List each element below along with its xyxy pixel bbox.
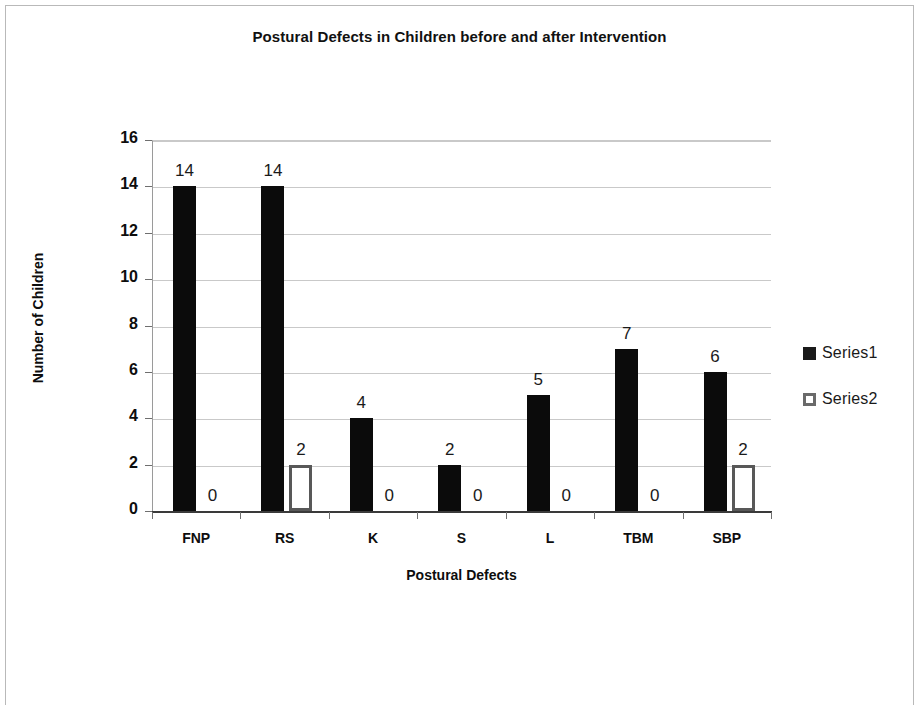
bar-value-label: 6 (695, 347, 735, 367)
gridline (153, 187, 771, 188)
bar-value-label: 14 (253, 161, 293, 181)
bar-value-label: 2 (430, 440, 470, 460)
x-axis-tick-mark (417, 512, 418, 519)
bar-value-label: 7 (607, 324, 647, 344)
y-axis-tick-mark (145, 418, 152, 419)
bar-rs-series2 (289, 465, 312, 511)
x-axis-tick-label-l: L (506, 530, 594, 546)
x-axis-tick-label-fnp: FNP (152, 530, 240, 546)
bar-value-label: 4 (341, 393, 381, 413)
gridline (153, 466, 771, 467)
y-axis-tick-mark (145, 372, 152, 373)
y-axis-tick-label: 4 (96, 407, 138, 425)
y-axis-tick-mark (145, 140, 152, 141)
bar-value-label: 0 (635, 486, 675, 506)
legend-label: Series2 (822, 390, 878, 408)
x-axis-tick-mark (240, 512, 241, 519)
plot-area: 1401424020507062 (152, 140, 771, 511)
bar-sbp-series2 (732, 465, 755, 511)
y-axis-tick-mark (145, 233, 152, 234)
bar-value-label: 2 (281, 440, 321, 460)
x-axis-tick-label-tbm: TBM (594, 530, 682, 546)
bar-value-label: 2 (723, 440, 763, 460)
bar-value-label: 14 (165, 161, 205, 181)
y-axis-title: Number of Children (30, 218, 46, 418)
chart-legend: Series1Series2 (803, 342, 878, 434)
legend-item-series1[interactable]: Series1 (803, 342, 878, 364)
legend-label: Series1 (822, 344, 878, 362)
x-axis-tick-mark (329, 512, 330, 519)
x-axis-tick-mark (594, 512, 595, 519)
y-axis-tick-mark (145, 279, 152, 280)
x-axis-tick-label-k: K (329, 530, 417, 546)
bar-fnp-series1 (173, 186, 196, 511)
x-axis-tick-mark (683, 512, 684, 519)
x-axis-tick-mark (152, 512, 153, 519)
y-axis-tick-label: 16 (96, 129, 138, 147)
y-axis-tick-label: 8 (96, 315, 138, 333)
x-axis-tick-mark (771, 512, 772, 519)
y-axis-tick-label: 6 (96, 361, 138, 379)
x-axis-tick-mark (506, 512, 507, 519)
bar-value-label: 5 (518, 370, 558, 390)
y-axis-tick-label: 0 (96, 500, 138, 518)
gridline (153, 419, 771, 420)
y-axis-tick-mark (145, 465, 152, 466)
gridline (153, 141, 771, 142)
x-axis-tick-label-rs: RS (240, 530, 328, 546)
gridline (153, 327, 771, 328)
legend-item-series2[interactable]: Series2 (803, 388, 878, 410)
x-axis-tick-label-s: S (417, 530, 505, 546)
y-axis-tick-label: 12 (96, 222, 138, 240)
gridline (153, 234, 771, 235)
x-axis-line (152, 511, 772, 513)
y-axis-tick-label: 14 (96, 175, 138, 193)
y-axis-tick-mark (145, 511, 152, 512)
bar-value-label: 0 (193, 486, 233, 506)
bar-value-label: 0 (458, 486, 498, 506)
legend-swatch-series2-icon (803, 393, 816, 406)
y-axis-tick-label: 2 (96, 454, 138, 472)
x-axis-title: Postural Defects (152, 567, 771, 583)
x-axis-tick-label-sbp: SBP (683, 530, 771, 546)
legend-swatch-series1-icon (803, 347, 816, 360)
y-axis-tick-mark (145, 326, 152, 327)
chart-title: Postural Defects in Children before and … (0, 28, 919, 45)
gridline (153, 280, 771, 281)
y-axis-tick-label: 10 (96, 268, 138, 286)
gridline (153, 373, 771, 374)
bar-value-label: 0 (546, 486, 586, 506)
y-axis-tick-mark (145, 186, 152, 187)
bar-rs-series1 (261, 186, 284, 511)
bar-value-label: 0 (369, 486, 409, 506)
